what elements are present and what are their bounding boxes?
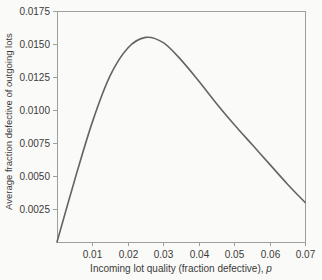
- y-tick-label: 0.0050: [19, 171, 50, 182]
- y-tick-label: 0.0100: [19, 105, 50, 116]
- y-tick-label: 0.0150: [19, 39, 50, 50]
- x-axis-title: Incoming lot quality (fraction defective…: [57, 263, 305, 274]
- y-axis-title: Average fraction defective of outgoing l…: [3, 11, 14, 232]
- x-tick-label: 0.04: [190, 249, 210, 260]
- x-axis-title-text: Incoming lot quality (fraction defective…: [90, 263, 266, 274]
- x-tick-label: 0.06: [261, 249, 281, 260]
- aoq-curve-figure: 0.00250.00500.00750.01000.01250.01500.01…: [0, 0, 322, 280]
- y-tick-label: 0.0125: [19, 72, 50, 83]
- x-tick-label: 0.05: [225, 249, 245, 260]
- x-axis-variable-p: p: [266, 263, 272, 274]
- x-tick-label: 0.07: [296, 249, 316, 260]
- x-tick-label: 0.02: [119, 249, 139, 260]
- aoq-curve-line: [57, 37, 305, 242]
- x-tick-label: 0.03: [154, 249, 174, 260]
- y-tick-label: 0.0175: [19, 6, 50, 17]
- plot-border: [58, 12, 306, 243]
- x-tick-label: 0.01: [83, 249, 103, 260]
- y-tick-label: 0.0025: [19, 204, 50, 215]
- y-axis-title-text: Average fraction defective of outgoing l…: [3, 33, 14, 210]
- y-tick-label: 0.0075: [19, 138, 50, 149]
- plot-svg: 0.00250.00500.00750.01000.01250.01500.01…: [0, 0, 322, 280]
